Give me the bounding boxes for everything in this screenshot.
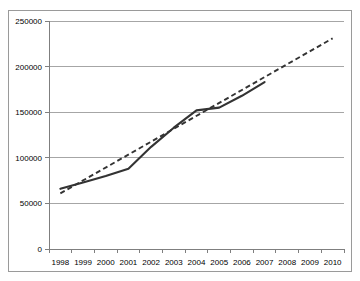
- x-axis-tick-label: 2007: [256, 258, 274, 267]
- trendline-series: [60, 38, 332, 193]
- x-axis-tick-label: 2001: [120, 258, 138, 267]
- x-axis-tick-label: 2003: [165, 258, 183, 267]
- x-axis-tick-label: 2010: [324, 258, 342, 267]
- y-axis-tick-label: 250000: [15, 17, 42, 26]
- x-axis-tick-label: 2009: [301, 258, 319, 267]
- x-axis-tick-label: 2008: [278, 258, 296, 267]
- y-axis-tick-label: 200000: [15, 63, 42, 72]
- x-axis-tick-label: 2002: [142, 258, 160, 267]
- x-axis-tick-label: 2000: [97, 258, 115, 267]
- x-axis-tick-label: 2005: [210, 258, 228, 267]
- y-axis-tick-label: 150000: [15, 108, 42, 117]
- chart-frame: 0500001000001500002000002500001998199920…: [8, 10, 352, 272]
- y-axis-tick-label: 0: [38, 245, 43, 254]
- y-axis-tick-label: 50000: [20, 199, 43, 208]
- y-axis-tick-label: 100000: [15, 154, 42, 163]
- x-axis-tick-label: 1998: [51, 258, 69, 267]
- line-chart: 0500001000001500002000002500001998199920…: [9, 11, 351, 271]
- x-axis-tick-label: 2004: [188, 258, 206, 267]
- x-axis-tick-label: 2006: [233, 258, 251, 267]
- x-axis-tick-label: 1999: [74, 258, 92, 267]
